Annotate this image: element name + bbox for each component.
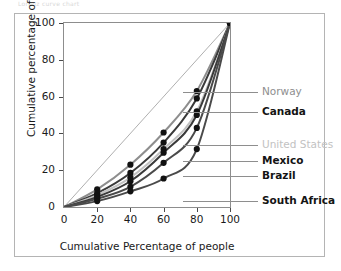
legend: NorwayCanadaUnited StatesMexicoBrazilSou… — [0, 0, 341, 271]
legend-label-canada[interactable]: Canada — [262, 105, 306, 117]
legend-leader-line-mexico — [183, 161, 258, 162]
legend-leader-line-canada — [183, 112, 258, 113]
legend-label-norway[interactable]: Norway — [262, 85, 302, 97]
legend-label-united-states[interactable]: United States — [262, 138, 333, 150]
legend-leader-line-brazil — [183, 176, 258, 177]
legend-leader-line-united-states — [183, 145, 258, 146]
legend-leader-line-norway — [183, 92, 258, 93]
figure-root: Lorenz curve chart Cumulative percentage… — [0, 0, 341, 271]
legend-label-mexico[interactable]: Mexico — [262, 154, 303, 166]
legend-label-south-africa[interactable]: South Africa — [262, 194, 335, 206]
legend-label-brazil[interactable]: Brazil — [262, 169, 296, 181]
legend-leader-line-south-africa — [183, 201, 258, 202]
